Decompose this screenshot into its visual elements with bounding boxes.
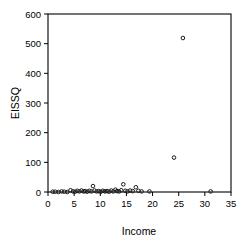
x-tick-label: 0 [45,198,50,209]
y-tick-label: 0 [36,187,41,198]
data-point [148,190,152,194]
x-tick-label: 10 [95,198,106,209]
y-tick-label: 400 [25,68,41,79]
y-tick-label: 600 [25,9,41,20]
x-tick-label: 15 [121,198,132,209]
data-point [134,185,138,189]
x-tick-label: 30 [200,198,211,209]
data-point [181,36,185,40]
data-points [51,36,213,194]
y-tick-label: 100 [25,157,41,168]
x-tick-label: 25 [173,198,184,209]
chart-canvas: 0100200300400500600 05101520253035 EISSQ… [0,0,247,246]
x-tick-label: 5 [71,198,76,209]
data-point [209,190,213,194]
data-point [172,156,176,160]
y-axis-ticks [44,14,48,192]
y-axis-tick-labels: 0100200300400500600 [25,9,41,198]
x-axis-title: Income [122,225,157,237]
x-axis-tick-labels: 05101520253035 [45,198,236,209]
x-tick-label: 20 [147,198,158,209]
y-tick-label: 300 [25,98,41,109]
data-point [91,184,95,188]
plot-frame [48,14,231,192]
data-point [121,182,125,186]
scatter-plot-figure: 0100200300400500600 05101520253035 EISSQ… [0,0,247,246]
y-tick-label: 500 [25,38,41,49]
x-tick-label: 35 [226,198,237,209]
y-tick-label: 200 [25,127,41,138]
y-axis-title: EISSQ [9,87,21,119]
